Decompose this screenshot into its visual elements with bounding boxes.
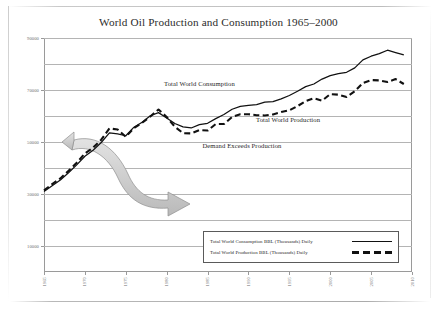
- annotation-production: Total World Production: [256, 116, 320, 123]
- demand-arrow-icon: [62, 132, 190, 216]
- series-line-production: [44, 79, 404, 190]
- x-tick-label: 1990: [246, 277, 251, 287]
- y-tick-label: 90000: [27, 36, 39, 41]
- series-line-consumption: [44, 50, 404, 191]
- x-tick-label: 1980: [164, 277, 169, 287]
- chart-legend: Total World Consumption BBL (Thousands) …: [203, 231, 399, 263]
- x-tick-mark: [371, 272, 372, 275]
- x-tick-label: 1975: [123, 277, 128, 287]
- x-tick-mark: [126, 272, 127, 275]
- x-tick-mark: [330, 272, 331, 275]
- page-border-right: [430, 8, 431, 298]
- page-border-left: [8, 6, 9, 301]
- x-tick-mark: [85, 272, 86, 275]
- y-tick-label: 10000: [27, 244, 39, 249]
- y-tick-label: 30000: [27, 192, 39, 197]
- legend-row-production: Total World Production BBL (Thousands) D…: [210, 247, 392, 258]
- x-tick-mark: [208, 272, 209, 275]
- x-tick-label: 1970: [82, 277, 87, 287]
- x-tick-mark: [248, 272, 249, 275]
- x-tick-label: 1965: [42, 277, 47, 287]
- legend-label-production: Total World Production BBL (Thousands) D…: [210, 250, 308, 255]
- chart-page: World Oil Production and Consumption 196…: [0, 0, 437, 319]
- page-border-bottom: [10, 301, 430, 302]
- x-tick-label: 2000: [328, 277, 333, 287]
- legend-swatch-consumption: [352, 238, 392, 246]
- page-border-top: [8, 6, 432, 7]
- legend-swatch-production: [352, 249, 392, 257]
- x-tick-label: 1995: [287, 277, 292, 287]
- annotation-demand-exceeds-production: Demand Exceeds Production: [196, 142, 288, 151]
- plot-area: 9000070000500003000010000 19651970197519…: [44, 38, 412, 272]
- x-tick-mark: [167, 272, 168, 275]
- x-tick-label: 2010: [410, 277, 415, 287]
- x-tick-mark: [289, 272, 290, 275]
- x-tick-label: 2005: [369, 277, 374, 287]
- annotation-consumption: Total World Consumption: [164, 80, 235, 87]
- y-tick-label: 70000: [27, 88, 39, 93]
- x-tick-label: 1985: [205, 277, 210, 287]
- y-tick-label: 50000: [27, 140, 39, 145]
- x-tick-mark: [44, 272, 45, 275]
- legend-label-consumption: Total World Consumption BBL (Thousands) …: [210, 239, 313, 244]
- legend-row-consumption: Total World Consumption BBL (Thousands) …: [210, 236, 392, 247]
- x-tick-mark: [412, 272, 413, 275]
- chart-title: World Oil Production and Consumption 196…: [0, 16, 437, 28]
